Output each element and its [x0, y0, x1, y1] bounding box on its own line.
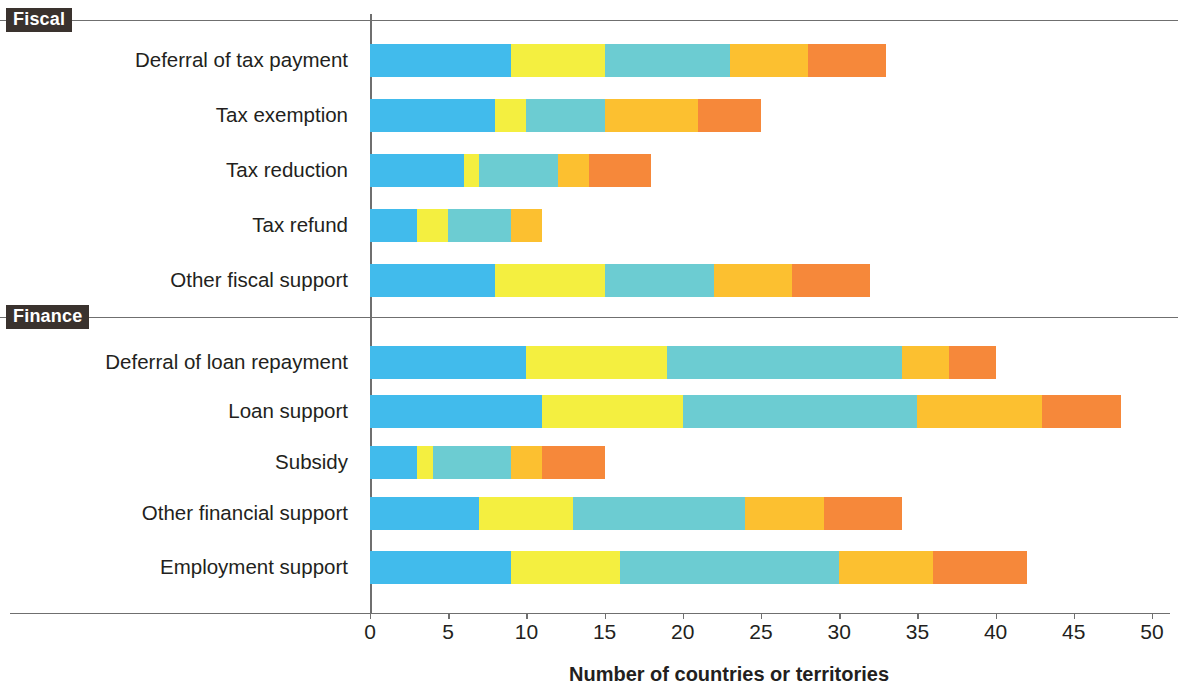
- bar-segment: [417, 446, 433, 479]
- bar-row: Deferral of tax payment: [0, 41, 1178, 79]
- bar-segment: [495, 264, 604, 297]
- bar-category-label: Other fiscal support: [0, 261, 370, 299]
- stacked-bar: [370, 395, 1121, 428]
- stacked-bar: [370, 551, 1027, 584]
- bar-category-label: Employment support: [0, 548, 370, 586]
- x-tick-mark: [605, 613, 606, 619]
- x-axis-title: Number of countries or territories: [0, 663, 1178, 686]
- bar-category-label: Deferral of tax payment: [0, 41, 370, 79]
- bar-row: Deferral of loan repayment: [0, 343, 1178, 381]
- x-tick-mark: [526, 613, 527, 619]
- bar-segment: [370, 395, 542, 428]
- bar-category-label: Loan support: [0, 392, 370, 430]
- x-tick-mark: [370, 613, 371, 619]
- bar-segment: [479, 497, 573, 530]
- bar-segment: [526, 99, 604, 132]
- bar-segment: [370, 446, 417, 479]
- bar-row: Tax refund: [0, 206, 1178, 244]
- bar-category-label: Tax reduction: [0, 151, 370, 189]
- stacked-bar: [370, 154, 651, 187]
- stacked-bar: [370, 497, 902, 530]
- bar-category-label: Deferral of loan repayment: [0, 343, 370, 381]
- x-tick-mark: [917, 613, 918, 619]
- bar-segment: [573, 497, 745, 530]
- x-tick-label: 30: [828, 620, 851, 644]
- bar-row: Other financial support: [0, 494, 1178, 532]
- bar-category-label: Other financial support: [0, 494, 370, 532]
- bar-segment: [448, 209, 511, 242]
- bar-segment: [1042, 395, 1120, 428]
- bar-row: Employment support: [0, 548, 1178, 586]
- bar-segment: [417, 209, 448, 242]
- bar-segment: [589, 154, 652, 187]
- bar-segment: [511, 446, 542, 479]
- bar-segment: [917, 395, 1042, 428]
- stacked-bar: [370, 44, 886, 77]
- bar-segment: [683, 395, 918, 428]
- x-tick-mark: [761, 613, 762, 619]
- bar-row: Tax exemption: [0, 96, 1178, 134]
- bar-row: Subsidy: [0, 443, 1178, 481]
- bar-segment: [824, 497, 902, 530]
- bar-segment: [511, 44, 605, 77]
- bar-segment: [605, 99, 699, 132]
- bar-segment: [839, 551, 933, 584]
- bar-segment: [620, 551, 839, 584]
- x-tick-label: 40: [984, 620, 1007, 644]
- bar-segment: [511, 209, 542, 242]
- bar-segment: [605, 264, 714, 297]
- x-tick-mark: [1074, 613, 1075, 619]
- bar-segment: [511, 551, 620, 584]
- bar-segment: [542, 446, 605, 479]
- bar-segment: [730, 44, 808, 77]
- x-tick-label: 20: [671, 620, 694, 644]
- bar-segment: [792, 264, 870, 297]
- bar-segment: [370, 209, 417, 242]
- bar-row: Loan support: [0, 392, 1178, 430]
- bar-segment: [933, 551, 1027, 584]
- x-tick-label: 10: [515, 620, 538, 644]
- bar-segment: [370, 497, 479, 530]
- x-tick-label: 50: [1140, 620, 1163, 644]
- bar-segment: [370, 99, 495, 132]
- bar-segment: [558, 154, 589, 187]
- plot-area: Deferral of tax paymentTax exemptionTax …: [0, 0, 1178, 700]
- bar-segment: [667, 346, 902, 379]
- x-tick-mark: [683, 613, 684, 619]
- bar-category-label: Tax refund: [0, 206, 370, 244]
- x-tick-mark: [839, 613, 840, 619]
- stacked-bar-chart: FiscalFinance Deferral of tax paymentTax…: [0, 0, 1178, 700]
- bar-segment: [370, 551, 511, 584]
- stacked-bar: [370, 209, 542, 242]
- bar-segment: [745, 497, 823, 530]
- bar-segment: [698, 99, 761, 132]
- bar-row: Other fiscal support: [0, 261, 1178, 299]
- bar-segment: [949, 346, 996, 379]
- bar-segment: [495, 99, 526, 132]
- bar-segment: [605, 44, 730, 77]
- bar-segment: [464, 154, 480, 187]
- stacked-bar: [370, 446, 605, 479]
- x-tick-label: 0: [364, 620, 376, 644]
- x-tick-mark: [996, 613, 997, 619]
- bar-segment: [370, 154, 464, 187]
- bar-category-label: Tax exemption: [0, 96, 370, 134]
- bar-segment: [714, 264, 792, 297]
- bar-category-label: Subsidy: [0, 443, 370, 481]
- stacked-bar: [370, 346, 996, 379]
- bar-segment: [370, 346, 526, 379]
- bar-segment: [542, 395, 683, 428]
- bar-segment: [808, 44, 886, 77]
- bar-row: Tax reduction: [0, 151, 1178, 189]
- bar-segment: [370, 264, 495, 297]
- x-tick-label: 15: [593, 620, 616, 644]
- x-tick-mark: [448, 613, 449, 619]
- bar-segment: [526, 346, 667, 379]
- x-tick-label: 35: [906, 620, 929, 644]
- bar-segment: [370, 44, 511, 77]
- bar-segment: [479, 154, 557, 187]
- bar-segment: [902, 346, 949, 379]
- bar-segment: [433, 446, 511, 479]
- x-tick-label: 5: [442, 620, 454, 644]
- x-tick-label: 45: [1062, 620, 1085, 644]
